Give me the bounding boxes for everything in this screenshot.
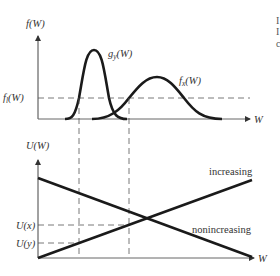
bottom-y-axis-label: U(W) [26,140,50,152]
top-x-axis-label: W [254,114,264,125]
cropped-char: I [276,26,279,37]
curve-f-x-label: fx(W) [179,75,202,88]
cropped-char: c [276,38,280,49]
nonincreasing-label: nonincreasing [192,224,252,235]
ux-tick-label: U(x) [16,220,36,232]
curve-g-y-label: gy(W) [108,48,133,61]
cropped-edge-text: I I c [276,15,280,49]
top-y-axis-label: f(W) [26,18,45,30]
increasing-label: increasing [209,166,253,177]
cropped-char: I [276,15,279,26]
bottom-x-axis-label: W [258,253,268,264]
threshold-label: fl(W) [3,92,24,105]
top-panel: f(W) W fl(W) gy(W) fx(W) [3,18,264,125]
bottom-panel: U(W) W U(x) U(y) increasing nonincreasin… [16,140,268,264]
uy-tick-label: U(y) [16,238,36,250]
utility-density-diagram: f(W) W fl(W) gy(W) fx(W) U(W) W U(x) U(y… [0,0,280,276]
